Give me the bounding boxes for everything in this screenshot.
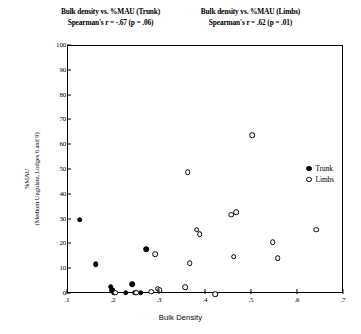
- data-point-limbs: [185, 170, 191, 176]
- x-axis-tick-label: .4: [195, 296, 215, 304]
- x-axis-tick-mark: [204, 289, 205, 294]
- data-point-trunk: [77, 217, 83, 223]
- scatter-plot-figure: Bulk density vs. %MAU (Trunk) Bulk densi…: [0, 0, 361, 334]
- y-axis-tick-label: 20: [40, 239, 66, 247]
- x-axis-tick-label: .3: [149, 296, 169, 304]
- y-axis-tick-label: 70: [40, 115, 66, 123]
- x-axis-tick-mark: [342, 289, 343, 294]
- data-point-trunk: [123, 290, 129, 296]
- x-axis-tick-mark: [250, 289, 251, 294]
- plot-area: [67, 45, 343, 293]
- y-axis-tick-label: 50: [40, 165, 66, 173]
- data-point-limbs: [133, 290, 139, 296]
- x-axis-tick-mark: [296, 289, 297, 294]
- x-axis-tick-mark: [158, 289, 159, 294]
- data-point-limbs: [234, 209, 240, 215]
- legend-item-limbs[interactable]: Limbs: [306, 174, 358, 185]
- x-axis-tick-label: .1: [57, 296, 77, 304]
- y-axis-tick-label: 40: [40, 190, 66, 198]
- y-axis-title: %MAU (Medium Ungulate, Lodges 6 and 9): [22, 79, 42, 279]
- data-point-trunk: [143, 247, 149, 253]
- y-axis-title-line2: (Medium Ungulate, Lodges 6 and 9): [32, 79, 42, 279]
- y-axis-tick-mark: [67, 169, 71, 170]
- filled-circle-icon: [306, 166, 312, 172]
- x-axis-tick-mark: [66, 289, 67, 294]
- y-axis-tick-mark: [67, 268, 71, 269]
- legend: Trunk Limbs: [306, 163, 358, 185]
- legend-item-trunk[interactable]: Trunk: [306, 163, 358, 174]
- data-point-limbs: [314, 227, 320, 233]
- title-limbs-line1: Bulk density vs. %MAU (Limbs): [181, 6, 321, 17]
- y-axis-tick-label: 60: [40, 140, 66, 148]
- title-trunk-line1: Bulk density vs. %MAU (Trunk): [41, 6, 181, 17]
- title-line-1: Bulk density vs. %MAU (Trunk) Bulk densi…: [0, 6, 361, 17]
- y-axis-tick-mark: [67, 193, 71, 194]
- title-trunk-line2: Spearman's r = -.67 (p = .06): [41, 17, 181, 28]
- data-points-layer: [68, 46, 342, 292]
- x-axis-tick-label: .5: [241, 296, 261, 304]
- y-axis-tick-mark: [67, 218, 71, 219]
- title-limbs-line2: Spearman's r = .62 (p = .01): [181, 17, 321, 28]
- data-point-limbs: [187, 260, 193, 266]
- open-circle-icon: [306, 177, 312, 183]
- y-axis-tick-label: 100: [40, 41, 66, 49]
- data-point-limbs: [231, 254, 237, 260]
- data-point-trunk: [93, 261, 99, 267]
- y-axis-tick-label: 80: [40, 91, 66, 99]
- data-point-limbs: [249, 132, 255, 138]
- x-axis-tick-label: .2: [103, 296, 123, 304]
- legend-label-trunk: Trunk: [316, 164, 333, 173]
- data-point-limbs: [183, 284, 189, 290]
- x-axis-tick-label: .6: [287, 296, 307, 304]
- data-point-limbs: [270, 239, 276, 245]
- x-axis-tick-mark: [112, 289, 113, 294]
- y-axis-tick-label: 90: [40, 66, 66, 74]
- data-point-limbs: [197, 232, 203, 238]
- data-point-limbs: [275, 255, 281, 261]
- data-point-limbs: [148, 289, 154, 295]
- x-axis-title: Bulk Density: [0, 313, 361, 322]
- y-axis-tick-mark: [67, 45, 71, 46]
- chart-title-block: Bulk density vs. %MAU (Trunk) Bulk densi…: [0, 6, 361, 28]
- title-line-2: Spearman's r = -.67 (p = .06) Spearman's…: [0, 17, 361, 28]
- data-point-limbs: [153, 252, 159, 258]
- y-axis-tick-label: 30: [40, 215, 66, 223]
- y-axis-tick-mark: [67, 69, 71, 70]
- legend-label-limbs: Limbs: [316, 175, 334, 184]
- y-axis-tick-mark: [67, 243, 71, 244]
- y-axis-tick-mark: [67, 144, 71, 145]
- y-axis-tick-mark: [67, 94, 71, 95]
- y-axis-title-line1: %MAU: [22, 79, 32, 279]
- y-axis-tick-mark: [67, 293, 71, 294]
- y-axis-tick-label: 10: [40, 264, 66, 272]
- data-point-trunk: [130, 281, 136, 287]
- x-axis-tick-label: .7: [333, 296, 353, 304]
- y-axis-tick-mark: [67, 119, 71, 120]
